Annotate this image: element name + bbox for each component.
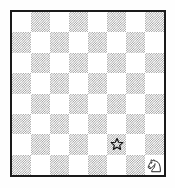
board-square[interactable] (69, 12, 88, 32)
board-square[interactable] (126, 114, 145, 134)
board-square[interactable] (50, 12, 69, 32)
board-square[interactable] (88, 12, 107, 32)
board-square[interactable] (12, 12, 31, 32)
board-square[interactable] (31, 94, 50, 114)
board-square[interactable] (50, 94, 69, 114)
board-square[interactable] (145, 12, 164, 32)
board-square[interactable] (88, 114, 107, 134)
board-square[interactable] (12, 134, 31, 154)
board-square[interactable] (31, 155, 50, 175)
board-square[interactable] (50, 114, 69, 134)
board-square[interactable] (12, 32, 31, 52)
board-square[interactable] (107, 114, 126, 134)
board-square[interactable] (145, 53, 164, 73)
board-square[interactable] (50, 134, 69, 154)
board-square[interactable] (88, 32, 107, 52)
board-square[interactable] (145, 94, 164, 114)
board-square[interactable] (88, 155, 107, 175)
board-square[interactable] (12, 94, 31, 114)
board-square[interactable] (12, 114, 31, 134)
board-square[interactable] (50, 32, 69, 52)
board-square[interactable] (88, 73, 107, 93)
board-square[interactable] (126, 155, 145, 175)
board-square[interactable] (126, 32, 145, 52)
board-square[interactable] (126, 134, 145, 154)
board-square[interactable] (126, 53, 145, 73)
board-square[interactable] (145, 155, 164, 175)
board-square[interactable] (69, 73, 88, 93)
board-square[interactable] (88, 134, 107, 154)
board-square[interactable] (31, 53, 50, 73)
board-square[interactable] (88, 53, 107, 73)
board-square[interactable] (50, 155, 69, 175)
board-square[interactable] (145, 134, 164, 154)
board-square[interactable] (31, 134, 50, 154)
board-square[interactable] (126, 12, 145, 32)
board-square[interactable] (69, 114, 88, 134)
board-square[interactable] (107, 73, 126, 93)
board-square[interactable] (31, 32, 50, 52)
star-icon (107, 134, 126, 154)
chessboard[interactable] (10, 10, 166, 177)
board-square[interactable] (31, 12, 50, 32)
board-square[interactable] (107, 134, 126, 154)
board-square[interactable] (31, 73, 50, 93)
board-square[interactable] (12, 155, 31, 175)
board-square[interactable] (107, 12, 126, 32)
board-square[interactable] (50, 53, 69, 73)
board-square[interactable] (69, 94, 88, 114)
board-square[interactable] (107, 94, 126, 114)
board-square[interactable] (69, 134, 88, 154)
board-square[interactable] (69, 155, 88, 175)
board-square[interactable] (145, 73, 164, 93)
board-square[interactable] (107, 155, 126, 175)
chessboard-figure (0, 0, 175, 188)
board-grid (12, 12, 164, 175)
board-square[interactable] (88, 94, 107, 114)
board-square[interactable] (126, 94, 145, 114)
board-square[interactable] (107, 53, 126, 73)
board-square[interactable] (50, 73, 69, 93)
board-square[interactable] (69, 32, 88, 52)
white-knight-icon[interactable] (145, 155, 164, 175)
board-square[interactable] (31, 114, 50, 134)
board-square[interactable] (12, 53, 31, 73)
board-square[interactable] (12, 73, 31, 93)
board-square[interactable] (145, 32, 164, 52)
board-square[interactable] (69, 53, 88, 73)
board-square[interactable] (126, 73, 145, 93)
board-square[interactable] (145, 114, 164, 134)
board-square[interactable] (107, 32, 126, 52)
